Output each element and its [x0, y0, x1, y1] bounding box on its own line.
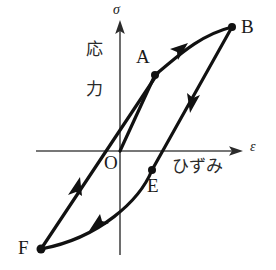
figure-canvas: σ ε 応 力 ひずみ O A B E F [0, 0, 276, 270]
point-dot-B [228, 23, 236, 31]
point-label-O: O [104, 153, 118, 172]
epsilon-axis-label: ε [250, 140, 256, 154]
epsilon-axis-name-jp: ひずみ [172, 158, 223, 175]
point-dot-E [148, 166, 156, 174]
point-label-A: A [136, 47, 150, 66]
stress-strain-curve-svg [0, 0, 276, 270]
arrowhead-F-to-A [68, 177, 82, 196]
sigma-axis-name-char-2: 力 [86, 81, 103, 98]
point-label-E: E [147, 176, 159, 195]
path-E-to-F [41, 170, 152, 249]
loop-direction-arrowheads [68, 43, 200, 231]
sigma-axis-label: σ [113, 3, 120, 17]
sigma-axis-name-char-1: 応 [86, 41, 103, 58]
point-label-F: F [18, 238, 29, 257]
point-label-B: B [241, 17, 254, 36]
path-A-to-B [155, 27, 232, 75]
point-dot-A [151, 71, 159, 79]
point-dot-F [37, 245, 46, 254]
